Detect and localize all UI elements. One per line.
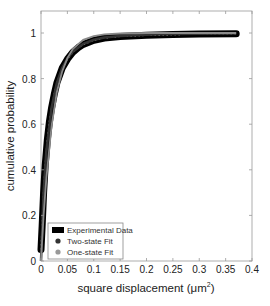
svg-text:Experimental Data: Experimental Data [67, 226, 133, 235]
y-tick-label: 0.4 [22, 165, 36, 176]
y-tick-label: 0.6 [22, 119, 36, 130]
x-tick-label: 0.4 [245, 264, 259, 275]
y-tick-label: 1 [30, 28, 36, 39]
x-tick-label: 0 [38, 264, 44, 275]
x-tick-label: 0.1 [87, 264, 101, 275]
cdf-chart: 00.050.10.150.20.250.30.350.400.20.40.60… [0, 0, 270, 306]
x-tick-label: 0.2 [140, 264, 154, 275]
legend: Experimental Data Two-state Fit One-stat… [48, 223, 133, 259]
x-tick-label: 0.05 [58, 264, 78, 275]
svg-text:One-state Fit: One-state Fit [67, 248, 114, 257]
x-axis-label: square displacement (μm2) [77, 281, 214, 294]
x-tick-label: 0.35 [216, 264, 236, 275]
y-tick-label: 0.2 [22, 210, 36, 221]
y-tick-label: 0.8 [22, 74, 36, 85]
y-axis-label: cumulative probability [4, 80, 16, 191]
svg-text:Two-state Fit: Two-state Fit [67, 237, 114, 246]
legend-swatch-experimental [52, 227, 64, 233]
y-tick-label: 0 [30, 256, 36, 267]
legend-marker-two-state [55, 238, 60, 243]
x-tick-label: 0.25 [163, 264, 183, 275]
x-tick-label: 0.3 [192, 264, 206, 275]
legend-marker-one-state [55, 249, 60, 254]
x-tick-label: 0.15 [110, 264, 130, 275]
